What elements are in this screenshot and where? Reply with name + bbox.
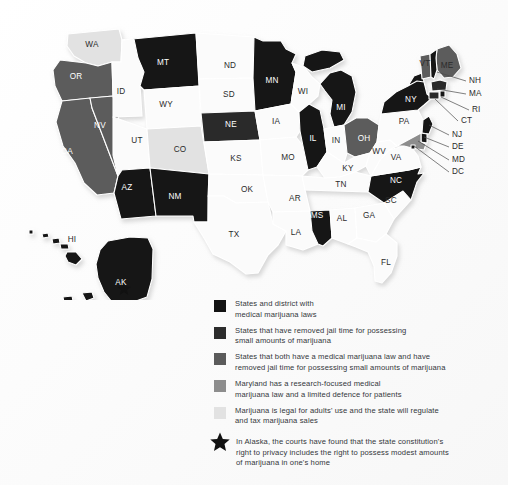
callout-label-MD[interactable]: MD — [452, 155, 465, 164]
state-AL[interactable] — [330, 208, 357, 244]
state-AK[interactable] — [63, 237, 153, 300]
state-OR[interactable] — [53, 60, 113, 101]
state-CO[interactable] — [147, 126, 209, 174]
state-IA[interactable] — [255, 104, 300, 140]
state-FL[interactable] — [348, 234, 397, 283]
state-WY[interactable] — [144, 86, 201, 129]
legend-item-both[interactable]: States that both have a medical marijuan… — [214, 352, 504, 373]
marijuana-laws-infographic: WAORCANVIDMTWYUTCOAZNMNDSDNEKSOKTXMNIAMO… — [0, 0, 508, 485]
legend-star-icon — [209, 431, 231, 453]
state-MN[interactable] — [253, 37, 296, 111]
legend-maryland-line2: marijuana law and a limited defence for … — [235, 390, 402, 401]
legend-label-both: States that both have a medical marijuan… — [235, 352, 446, 373]
state-NM[interactable] — [150, 168, 209, 222]
state-RI[interactable] — [440, 91, 445, 97]
state-NY[interactable] — [381, 73, 432, 114]
state-DC[interactable] — [411, 145, 415, 149]
callout-label-DC[interactable]: DC — [452, 167, 464, 176]
state-KS[interactable] — [204, 140, 263, 175]
leader-line-DE — [424, 137, 449, 147]
callout-label-NJ[interactable]: NJ — [452, 130, 462, 139]
legend-swatch-medical — [214, 300, 226, 312]
legend: States and district with medical marijua… — [214, 299, 504, 469]
legend-swatch-maryland — [214, 380, 226, 392]
legend-item-alaska-note[interactable]: In Alaska, the courts have found that th… — [214, 434, 504, 469]
legend-item-legal[interactable]: Marijuana is legal for adults' use and t… — [214, 406, 504, 427]
state-AZ[interactable] — [114, 168, 156, 219]
state-label-HI: HI — [68, 235, 77, 244]
legend-legal-line2: and tax marijuana sales — [235, 416, 439, 427]
legend-medical-line1: States and district with — [235, 299, 314, 308]
legend-decriminalized-line1: States that have removed jail time for p… — [235, 326, 406, 335]
us-map: WAORCANVIDMTWYUTCOAZNMNDSDNEKSOKTXMNIAMO… — [0, 0, 508, 300]
legend-label-maryland: Maryland has a research-focused medical … — [235, 379, 402, 400]
callout-label-CT[interactable]: CT — [461, 116, 472, 125]
legend-label-legal: Marijuana is legal for adults' use and t… — [235, 406, 439, 427]
legend-both-line1: States that both have a medical marijuan… — [235, 352, 430, 361]
legend-swatch-decriminalized — [214, 327, 226, 339]
state-UT[interactable] — [113, 117, 150, 176]
legend-alaska-line1: In Alaska, the courts have found that th… — [236, 437, 443, 446]
state-HI[interactable] — [29, 230, 82, 265]
legend-item-decriminalized[interactable]: States that have removed jail time for p… — [214, 326, 504, 347]
legend-swatch-legal — [214, 407, 226, 419]
state-NJ[interactable] — [422, 116, 433, 134]
callout-label-RI[interactable]: RI — [472, 105, 481, 114]
legend-label-medical: States and district with medical marijua… — [235, 299, 317, 320]
legend-swatch-both — [214, 353, 226, 365]
callout-label-DE[interactable]: DE — [452, 142, 464, 151]
leader-line-MD — [418, 141, 449, 160]
state-WA[interactable] — [67, 29, 122, 66]
callout-labels-group: NHMARICTNJDEMDDC — [452, 76, 482, 176]
state-CT[interactable] — [429, 92, 439, 99]
legend-alaska-line3: of marijuana in one's home — [236, 458, 449, 469]
callout-label-MA[interactable]: MA — [469, 89, 482, 98]
legend-label-alaska-note: In Alaska, the courts have found that th… — [236, 434, 449, 469]
state-SD[interactable] — [199, 78, 255, 113]
callout-label-NH[interactable]: NH — [469, 76, 481, 85]
us-map-svg: WAORCANVIDMTWYUTCOAZNMNDSDNEKSOKTXMNIAMO… — [0, 0, 508, 300]
state-NE[interactable] — [201, 111, 260, 142]
legend-both-line2: removed jail time for possessing small a… — [235, 363, 446, 374]
legend-medical-line2: medical marijuana laws — [235, 310, 317, 321]
leader-line-CT — [435, 99, 458, 121]
legend-decriminalized-line2: small amounts of marijuana — [235, 336, 406, 347]
leader-line-RI — [441, 97, 469, 110]
state-VT[interactable] — [420, 54, 431, 79]
legend-alaska-line2: right to privacy includes the right to p… — [236, 448, 449, 459]
leader-line-NJ — [429, 125, 449, 135]
legend-label-decriminalized: States that have removed jail time for p… — [235, 326, 406, 347]
state-NH[interactable] — [430, 49, 437, 79]
state-MO[interactable] — [260, 137, 308, 176]
map-shapes-group — [29, 29, 461, 300]
state-ND[interactable] — [196, 33, 254, 79]
legend-item-medical[interactable]: States and district with medical marijua… — [214, 299, 504, 320]
legend-item-maryland[interactable]: Maryland has a research-focused medical … — [214, 379, 504, 400]
legend-legal-line1: Marijuana is legal for adults' use and t… — [235, 406, 439, 415]
legend-maryland-line1: Maryland has a research-focused medical — [235, 379, 381, 388]
